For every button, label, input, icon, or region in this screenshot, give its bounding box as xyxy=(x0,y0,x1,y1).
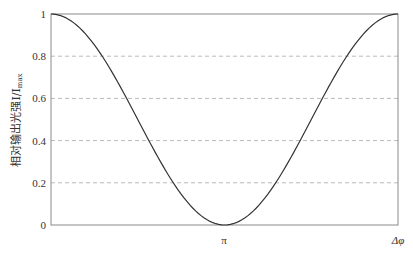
y-axis-label-main: 相对输出光强I/I xyxy=(9,88,23,166)
x-tick-pi: π xyxy=(221,234,227,246)
y-tick-label: 0.4 xyxy=(32,135,46,147)
intensity-curve xyxy=(51,14,398,225)
y-tick-label: 0.8 xyxy=(32,50,46,62)
gridlines xyxy=(51,56,398,183)
x-axis-label: Δφ xyxy=(391,234,405,246)
y-tick-label: 0 xyxy=(41,219,47,231)
plot-frame xyxy=(51,14,398,225)
y-tick-label: 0.2 xyxy=(32,177,46,189)
y-axis-ticks: 00.20.40.60.81 xyxy=(32,8,46,231)
chart: 00.20.40.60.81 π Δφ 相对输出光强I/Imax xyxy=(0,0,413,255)
y-tick-label: 1 xyxy=(41,8,47,20)
y-axis-label-sub: max xyxy=(16,73,24,88)
y-tick-label: 0.6 xyxy=(32,92,46,104)
y-axis-label: 相对输出光强I/Imax xyxy=(9,73,24,166)
